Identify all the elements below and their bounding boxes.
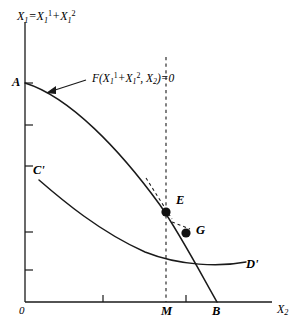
label-A: A (12, 76, 20, 89)
equation-f: F( (92, 72, 103, 84)
annotation-arrow (46, 80, 86, 94)
label-C-prime: C' (33, 164, 45, 177)
x-axis-label-sub: 2 (284, 308, 288, 317)
equation-close: )=0 (157, 72, 174, 84)
point-E-marker (161, 207, 170, 216)
y-axis-label-plus: + (52, 9, 60, 23)
equation-t1: X (103, 72, 110, 84)
label-M: M (161, 305, 172, 318)
constraint-equation-label: F(X11+X12, X2)=0 (92, 72, 174, 86)
origin-label: 0 (19, 305, 25, 316)
diagram-svg (0, 0, 300, 329)
equation-t2: X (125, 72, 132, 84)
point-G-marker (181, 228, 190, 237)
label-D-prime: D' (246, 258, 259, 271)
equation-comma: , (140, 72, 143, 84)
y-axis-label-equals: = (28, 9, 36, 23)
x-axis-label: X2 (277, 303, 288, 318)
label-B: B (212, 305, 220, 318)
label-E: E (176, 194, 184, 207)
figure-canvas: X1=X11+X12 X2 0 F(X11+X12, X2)=0 A B C' … (0, 0, 300, 329)
curve-CD (39, 180, 246, 265)
y-axis-ticks (25, 83, 33, 270)
y-axis-label-term2-sup: 2 (72, 9, 76, 18)
y-axis-label: X1=X11+X12 (17, 10, 76, 25)
x-axis-ticks (103, 295, 186, 302)
label-G: G (196, 224, 205, 237)
y-axis-label-term1: X (37, 9, 44, 23)
